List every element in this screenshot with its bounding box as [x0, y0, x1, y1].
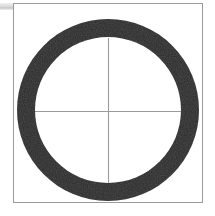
- figure-canvas: [0, 0, 215, 216]
- plot-frame-border: [13, 3, 203, 203]
- corner-gradient-bar: [0, 3, 14, 10]
